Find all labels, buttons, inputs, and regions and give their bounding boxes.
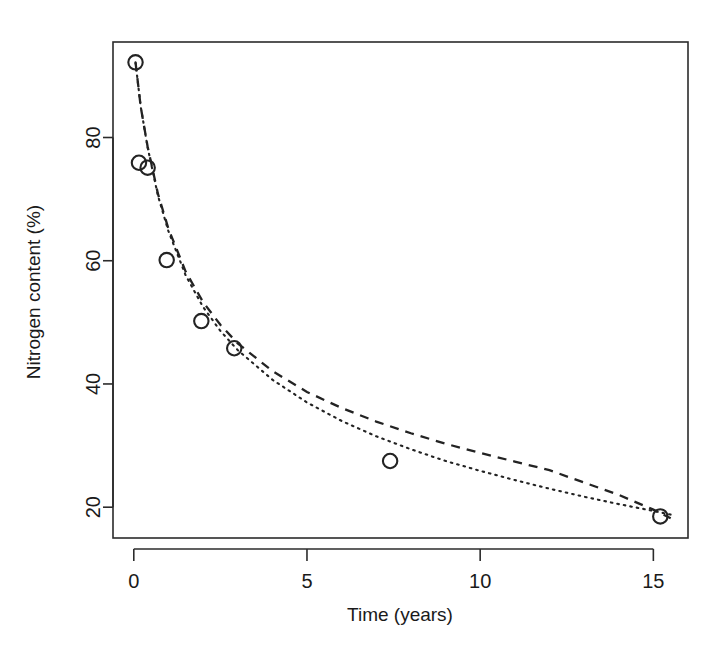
figure-background [0,0,720,656]
y-tick-label-40: 40 [82,373,104,395]
y-axis-title: Nitrogen content (%) [23,205,44,379]
x-tick-label-10: 10 [469,570,491,592]
y-tick-label-60: 60 [82,250,104,272]
x-axis-title: Time (years) [347,604,453,625]
plot-figure: 20406080 051015 Time (years) Nitrogen co… [0,0,720,656]
x-tick-label-15: 15 [642,570,664,592]
x-tick-label-0: 0 [128,570,139,592]
y-tick-label-80: 80 [82,126,104,148]
nitrogen-decay-scatter-plot: 20406080 051015 Time (years) Nitrogen co… [0,0,720,656]
x-tick-label-5: 5 [301,570,312,592]
y-tick-label-20: 20 [82,496,104,518]
